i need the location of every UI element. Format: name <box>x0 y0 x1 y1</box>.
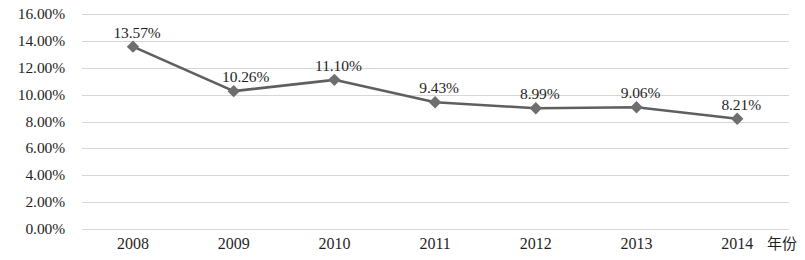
x-axis-title: 年份 <box>767 233 797 256</box>
data-point-label: 9.43% <box>419 80 459 96</box>
data-point-marker <box>630 101 642 113</box>
line-chart: 0.00%2.00%4.00%6.00%8.00%10.00%12.00%14.… <box>0 0 805 260</box>
x-tick-label: 2008 <box>117 232 149 255</box>
data-point-label: 10.26% <box>222 69 269 85</box>
x-tick-label: 2010 <box>318 232 350 255</box>
data-point-label: 9.06% <box>621 85 661 101</box>
x-tick-label: 2014 <box>721 232 753 255</box>
data-point-label: 13.57% <box>113 25 160 41</box>
data-point-label: 8.21% <box>721 97 761 113</box>
data-point-marker <box>731 112 743 124</box>
data-point-marker <box>127 40 139 52</box>
x-axis: 年份 2008200920102011201220132014 <box>0 232 805 260</box>
data-point-marker <box>328 74 340 86</box>
data-point-label: 8.99% <box>520 86 560 102</box>
x-tick-label: 2011 <box>419 232 450 255</box>
x-tick-label: 2013 <box>621 232 653 255</box>
data-point-marker <box>530 102 542 114</box>
data-point-marker <box>429 96 441 108</box>
data-point-marker <box>228 85 240 97</box>
x-tick-label: 2012 <box>520 232 552 255</box>
data-point-label: 11.10% <box>315 58 362 74</box>
x-tick-label: 2009 <box>218 232 250 255</box>
